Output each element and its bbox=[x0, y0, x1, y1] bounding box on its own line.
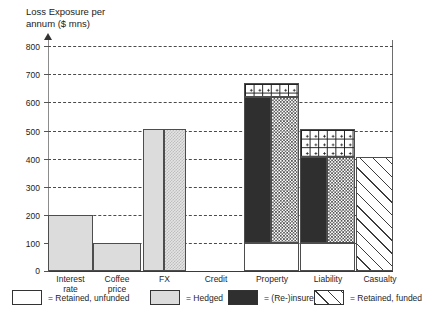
bar-property-reinsured-alt[interactable] bbox=[271, 97, 299, 243]
chart-legend: = Retained, unfunded = Hedged = (Re-)ins… bbox=[12, 288, 408, 314]
legend-label-retained-unfunded: = Retained, unfunded bbox=[48, 293, 130, 303]
ytick-label-100: 100 bbox=[6, 239, 40, 249]
ytick-label-800: 800 bbox=[6, 42, 40, 52]
xtick-label-casualty: Casualty bbox=[352, 274, 408, 284]
bar-casualty-retained-funded[interactable] bbox=[356, 157, 393, 271]
bar-property-retained-unfunded[interactable] bbox=[244, 243, 299, 271]
xtick-label-property: Property bbox=[244, 274, 300, 284]
legend-swatch-hedged bbox=[150, 290, 180, 305]
legend-label-hedged: = Hedged bbox=[186, 293, 223, 303]
xtick-interest-rate-l1: Interest bbox=[56, 274, 84, 284]
ytick-label-400: 400 bbox=[6, 155, 40, 165]
legend-item-retained-unfunded[interactable]: = Retained, unfunded bbox=[12, 290, 130, 305]
bar-property-unprotected[interactable] bbox=[244, 83, 299, 97]
legend-swatch-retained-funded bbox=[314, 290, 344, 305]
ytick-label-0: 0 bbox=[6, 266, 40, 276]
bar-fx-hedged-right[interactable] bbox=[164, 129, 186, 271]
bar-property-reinsured[interactable] bbox=[244, 97, 271, 243]
legend-label-reinsured: = (Re-)insured bbox=[264, 293, 319, 303]
legend-item-hedged[interactable]: = Hedged bbox=[150, 290, 223, 305]
xtick-coffee-price-l1: Coffee bbox=[105, 274, 130, 284]
ytick-label-700: 700 bbox=[6, 70, 40, 80]
xtick-label-fx: FX bbox=[141, 274, 188, 284]
y-axis-title-line1: Loss Exposure per bbox=[26, 6, 105, 17]
plot-axis-bottom bbox=[48, 271, 393, 272]
y-axis-title-line2: annum ($ mns) bbox=[26, 18, 90, 29]
ytick-0 bbox=[44, 271, 49, 272]
xtick-label-liability: Liability bbox=[300, 274, 356, 284]
legend-swatch-reinsured bbox=[228, 290, 258, 305]
bar-liability-unprotected[interactable] bbox=[300, 129, 355, 157]
legend-swatch-retained-unfunded bbox=[12, 290, 42, 305]
legend-label-retained-funded: = Retained, funded bbox=[350, 293, 422, 303]
bar-fx-hedged-left[interactable] bbox=[143, 129, 164, 271]
y-axis-title: Loss Exposure per annum ($ mns) bbox=[26, 6, 196, 29]
bar-liability-reinsured-alt[interactable] bbox=[327, 157, 355, 243]
ytick-label-300: 300 bbox=[6, 183, 40, 193]
legend-item-reinsured[interactable]: = (Re-)insured bbox=[228, 290, 319, 305]
bar-coffee-price-hedged[interactable] bbox=[93, 243, 141, 271]
ytick-label-600: 600 bbox=[6, 98, 40, 108]
bar-plot-area bbox=[48, 40, 393, 271]
y-axis-arrow-icon bbox=[44, 33, 52, 40]
bar-liability-reinsured[interactable] bbox=[300, 157, 327, 243]
xtick-label-credit: Credit bbox=[188, 274, 244, 284]
bar-liability-retained-unfunded[interactable] bbox=[300, 243, 355, 271]
bar-interest-rate-hedged[interactable] bbox=[48, 215, 93, 271]
legend-item-retained-funded[interactable]: = Retained, funded bbox=[314, 290, 422, 305]
ytick-label-500: 500 bbox=[6, 127, 40, 137]
ytick-label-200: 200 bbox=[6, 211, 40, 221]
